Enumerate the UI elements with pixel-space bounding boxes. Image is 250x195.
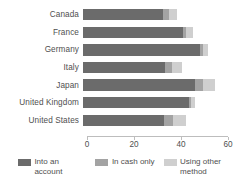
bar-segment[interactable]: [164, 115, 174, 126]
legend-swatch-icon: [95, 159, 108, 167]
bar-segment[interactable]: [203, 79, 215, 90]
legend-item[interactable]: Into an account: [18, 157, 87, 177]
bar-segment[interactable]: [169, 9, 177, 20]
legend-swatch-icon: [164, 159, 177, 167]
bar-track: [83, 94, 250, 112]
bar-segment[interactable]: [83, 79, 195, 90]
bar-segment[interactable]: [165, 62, 172, 73]
legend-label: In cash only: [112, 157, 155, 167]
x-axis-ticks: 0204060: [0, 137, 250, 151]
chart-row: Germany: [0, 41, 250, 59]
bar-segment[interactable]: [83, 27, 183, 38]
category-label: Canada: [0, 10, 83, 19]
category-label: Japan: [0, 81, 83, 90]
bar-segment[interactable]: [186, 27, 193, 38]
bar-track: [83, 24, 250, 42]
chart-row: France: [0, 24, 250, 42]
chart-legend: Into an accountIn cash onlyUsing other m…: [0, 157, 250, 177]
bar-track: [83, 112, 250, 130]
stacked-bar[interactable]: [83, 44, 208, 55]
bar-segment[interactable]: [203, 44, 208, 55]
bar-segment[interactable]: [191, 97, 195, 108]
x-tick-label: 0: [75, 140, 99, 149]
x-tick-label: 40: [169, 140, 193, 149]
stacked-bar[interactable]: [83, 79, 215, 90]
bar-segment[interactable]: [172, 62, 181, 73]
category-label: United Kingdom: [0, 98, 83, 107]
category-label: Germany: [0, 45, 83, 54]
legend-item[interactable]: Using other method: [164, 157, 233, 177]
plot-area: CanadaFranceGermanyItalyJapanUnited King…: [0, 6, 250, 136]
legend-swatch-icon: [18, 159, 31, 167]
chart-row: United Kingdom: [0, 94, 250, 112]
stacked-bar[interactable]: [83, 97, 195, 108]
bar-track: [83, 41, 250, 59]
x-tick-label: 60: [216, 140, 240, 149]
legend-label: Using other method: [180, 157, 232, 177]
bar-segment[interactable]: [83, 9, 163, 20]
bar-segment[interactable]: [83, 62, 165, 73]
category-label: France: [0, 28, 83, 37]
legend-item[interactable]: In cash only: [95, 157, 154, 167]
category-label: United States: [0, 116, 83, 125]
bar-track: [83, 59, 250, 77]
bar-segment[interactable]: [83, 115, 164, 126]
bar-segment[interactable]: [173, 115, 186, 126]
stacked-bar-chart: CanadaFranceGermanyItalyJapanUnited King…: [0, 0, 250, 195]
category-label: Italy: [0, 63, 83, 72]
stacked-bar[interactable]: [83, 27, 193, 38]
stacked-bar[interactable]: [83, 115, 186, 126]
stacked-bar[interactable]: [83, 62, 182, 73]
chart-row: Japan: [0, 76, 250, 94]
chart-row: Italy: [0, 59, 250, 77]
bar-segment[interactable]: [195, 79, 203, 90]
stacked-bar[interactable]: [83, 9, 177, 20]
chart-row: United States: [0, 112, 250, 130]
bar-track: [83, 76, 250, 94]
legend-label: Into an account: [34, 157, 86, 177]
bar-segment[interactable]: [83, 97, 189, 108]
bar-segment[interactable]: [83, 44, 200, 55]
chart-row: Canada: [0, 6, 250, 24]
x-tick-label: 20: [122, 140, 146, 149]
bar-track: [83, 6, 250, 24]
